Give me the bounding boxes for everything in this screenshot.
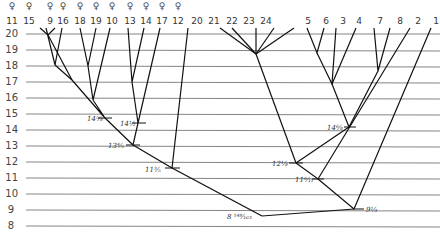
node-label: 14⁶⁄₈ bbox=[327, 124, 343, 132]
leaf-label: 5 bbox=[305, 16, 311, 26]
female-symbol-icon: ♀ bbox=[60, 1, 67, 11]
leaf-label: 1 bbox=[433, 16, 439, 26]
dendrogram: 20 19 18 17 16 15 14 13 12 11 10 9 8 ♀ ♀… bbox=[0, 0, 440, 242]
node-label: 9⅓ bbox=[366, 206, 377, 214]
node-label: 14½ bbox=[120, 120, 136, 128]
y-tick-label: 15 bbox=[5, 108, 18, 119]
leaf-label: 13 bbox=[124, 16, 135, 26]
leaf-label: 14 bbox=[140, 16, 152, 26]
y-tick-label: 20 bbox=[5, 28, 18, 39]
leaf-label: 7 bbox=[377, 16, 383, 26]
leaf-label: 11 bbox=[6, 16, 17, 26]
y-tick-label: 9 bbox=[8, 204, 14, 215]
leaf-label: 3 bbox=[340, 16, 346, 26]
y-tick-label: 8 bbox=[8, 220, 14, 231]
leaf-label: 6 bbox=[323, 16, 329, 26]
leaf-label: 8 bbox=[397, 16, 403, 26]
leaf-label: 18 bbox=[74, 16, 86, 26]
y-tick-label: 10 bbox=[5, 188, 18, 199]
node-label: 11⅗ bbox=[145, 166, 161, 174]
sex-symbols: ♀ ♀ ♀ ♀ ♀ ♀ ♀ ♀ ♀ ♀ ♀ bbox=[9, 1, 182, 11]
female-symbol-icon: ♀ bbox=[26, 1, 33, 11]
female-symbol-icon: ♀ bbox=[9, 1, 16, 11]
leaf-label: 15 bbox=[23, 16, 34, 26]
node-label: 11⁶⁄₁₁ bbox=[295, 176, 314, 184]
leaf-label: 4 bbox=[356, 16, 362, 26]
node-label: 14⅝ bbox=[87, 115, 103, 123]
node-label: 8 ¹⁴⁸⁄₁₆₃ bbox=[227, 213, 252, 221]
leaf-label: 23 bbox=[243, 16, 254, 26]
node-label: 13⅘ bbox=[108, 142, 124, 150]
y-tick-label: 11 bbox=[5, 172, 18, 183]
y-tick-label: 17 bbox=[5, 76, 18, 87]
leaf-label: 19 bbox=[90, 16, 102, 26]
node-labels: 14⅝ 14½ 13⅘ 11⅗ 8 ¹⁴⁸⁄₁₆₃ 14⁶⁄₈ 12⅛ 11⁶⁄… bbox=[87, 115, 377, 221]
female-symbol-icon: ♀ bbox=[175, 1, 182, 11]
y-tick-label: 14 bbox=[5, 124, 18, 135]
leaf-label: 22 bbox=[226, 16, 237, 26]
female-symbol-icon: ♀ bbox=[77, 1, 84, 11]
leaf-label: 21 bbox=[208, 16, 219, 26]
leaf-label: 2 bbox=[415, 16, 421, 26]
female-symbol-icon: ♀ bbox=[109, 1, 116, 11]
leaf-labels: 11 15 9 16 18 19 10 13 14 17 12 20 21 22… bbox=[6, 16, 439, 26]
leaf-label: 12 bbox=[172, 16, 183, 26]
leaf-label: 17 bbox=[156, 16, 167, 26]
female-symbol-icon: ♀ bbox=[93, 1, 100, 11]
y-tick-label: 19 bbox=[5, 44, 18, 55]
y-tick-label: 18 bbox=[5, 60, 18, 71]
female-symbol-icon: ♀ bbox=[159, 1, 166, 11]
node-label: 12⅛ bbox=[272, 160, 288, 168]
leaf-label: 9 bbox=[47, 16, 53, 26]
y-axis: 20 19 18 17 16 15 14 13 12 11 10 9 8 bbox=[5, 28, 18, 231]
leaf-label: 24 bbox=[260, 16, 272, 26]
female-symbol-icon: ♀ bbox=[143, 1, 150, 11]
y-tick-label: 12 bbox=[5, 156, 18, 167]
female-symbol-icon: ♀ bbox=[47, 1, 54, 11]
leaf-label: 10 bbox=[106, 16, 118, 26]
y-tick-label: 16 bbox=[5, 92, 18, 103]
female-symbol-icon: ♀ bbox=[127, 1, 134, 11]
leaf-label: 20 bbox=[191, 16, 203, 26]
y-tick-label: 13 bbox=[5, 140, 18, 151]
leaf-label: 16 bbox=[57, 16, 69, 26]
